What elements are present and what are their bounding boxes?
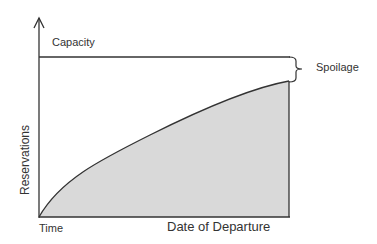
capacity-label: Capacity xyxy=(52,36,95,48)
spoilage-label: Spoilage xyxy=(316,61,359,73)
spoilage-brace-icon xyxy=(289,57,302,82)
x-axis-label: Date of Departure xyxy=(167,219,270,234)
reservations-area xyxy=(39,81,289,217)
x-axis-start-label: Time xyxy=(39,222,63,234)
y-axis-label: Reservations xyxy=(18,125,32,195)
